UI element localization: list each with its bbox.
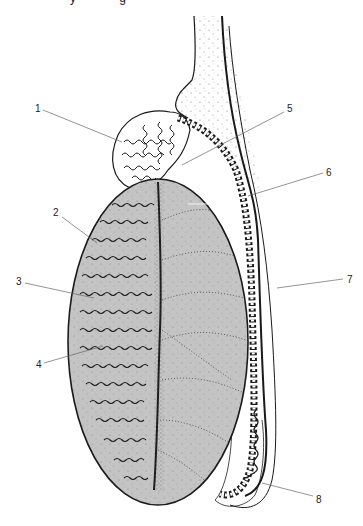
label-8: 8 bbox=[316, 495, 322, 505]
label-4: 4 bbox=[36, 360, 42, 370]
label-2: 2 bbox=[53, 208, 59, 218]
label-1: 1 bbox=[35, 104, 41, 114]
leader-line-8 bbox=[262, 483, 313, 496]
testis-diagram bbox=[0, 0, 363, 526]
label-5: 5 bbox=[287, 104, 293, 114]
label-3: 3 bbox=[16, 277, 22, 287]
testis bbox=[68, 179, 248, 509]
leader-line-7 bbox=[277, 279, 343, 288]
label-6: 6 bbox=[326, 168, 332, 178]
leader-line-1 bbox=[43, 110, 122, 142]
label-7: 7 bbox=[347, 275, 353, 285]
epididymis-head bbox=[113, 111, 190, 188]
